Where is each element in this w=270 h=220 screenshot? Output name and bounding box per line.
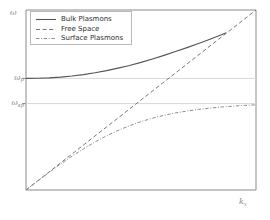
legend-item-free-space: Free Space: [31, 25, 131, 35]
y-tick-label-omega-sp: ωsp: [3, 99, 24, 107]
plasmon-dispersion-figure: ω kx ωp ωsp Bulk Plasmons Free Space: [0, 0, 270, 220]
x-axis-label: kx: [239, 198, 247, 206]
x-axis-label-subscript: x: [244, 201, 247, 207]
legend-swatch-dashed-line: [36, 25, 56, 34]
legend-item-surface-plasmons: Surface Plasmons: [31, 34, 131, 44]
legend-item-bulk-plasmons: Bulk Plasmons: [31, 15, 131, 25]
legend-swatch-dashdot-line: [36, 34, 56, 43]
legend-label-bulk-plasmons: Bulk Plasmons: [61, 15, 112, 24]
series-line-surface-plasmons: [26, 105, 256, 190]
legend-label-free-space: Free Space: [61, 25, 99, 34]
y-axis-label: ω: [10, 9, 17, 17]
legend-label-surface-plasmons: Surface Plasmons: [61, 34, 123, 43]
chart-legend: Bulk Plasmons Free Space Surface Plasmon…: [30, 11, 132, 45]
legend-swatch-solid-line: [36, 15, 56, 24]
y-tick-omega-sp-main: ω: [12, 98, 18, 107]
y-tick-omega-p-subscript: p: [20, 76, 24, 82]
y-tick-omega-sp-subscript: sp: [18, 102, 24, 108]
y-tick-label-omega-p: ωp: [6, 74, 24, 82]
